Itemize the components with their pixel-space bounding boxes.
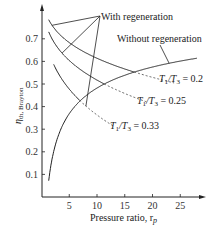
x-tick-label: 5 bbox=[67, 200, 72, 211]
y-tick-label: 0.7 bbox=[26, 33, 39, 44]
x-tick-label: 15 bbox=[120, 200, 130, 211]
series-regeneration-solid-0.2 bbox=[49, 20, 135, 72]
series-regeneration-dashed-0.33 bbox=[80, 100, 113, 126]
y-tick-label: 0.2 bbox=[26, 146, 39, 157]
without-regeneration-pointer bbox=[160, 45, 169, 63]
with-regeneration-pointer bbox=[52, 16, 100, 25]
brayton-efficiency-chart: 5101520250.10.20.30.40.50.60.7 With rege… bbox=[0, 0, 216, 237]
with-regeneration-pointer bbox=[62, 16, 100, 53]
y-tick-label: 0.3 bbox=[26, 124, 39, 135]
y-tick-label: 0.5 bbox=[26, 79, 39, 90]
series-regeneration-solid-0.33 bbox=[54, 64, 80, 100]
ratio-label-0.33: T1/T3 = 0.33 bbox=[110, 120, 159, 133]
x-tick-label: 20 bbox=[148, 200, 158, 211]
y-tick-label: 0.1 bbox=[26, 169, 39, 180]
y-axis-label: ηth, Brayton bbox=[12, 87, 25, 124]
x-axis-arrow-icon bbox=[199, 195, 206, 199]
y-tick-label: 0.6 bbox=[26, 56, 39, 67]
ratio-label-0.25: T1/T3 = 0.25 bbox=[137, 95, 186, 108]
x-tick-label: 10 bbox=[92, 200, 102, 211]
annotation-without-regeneration: Without regeneration bbox=[117, 33, 202, 44]
annotation-with-regeneration: With regeneration bbox=[101, 11, 173, 22]
with-regeneration-pointer bbox=[86, 16, 100, 106]
ratio-label-0.2: T1/T3 = 0.2 bbox=[159, 73, 203, 86]
y-tick-label: 0.4 bbox=[26, 101, 39, 112]
x-axis-label: Pressure ratio, rp bbox=[90, 212, 157, 225]
x-tick-label: 25 bbox=[175, 200, 185, 211]
y-axis-arrow-icon bbox=[40, 4, 44, 11]
